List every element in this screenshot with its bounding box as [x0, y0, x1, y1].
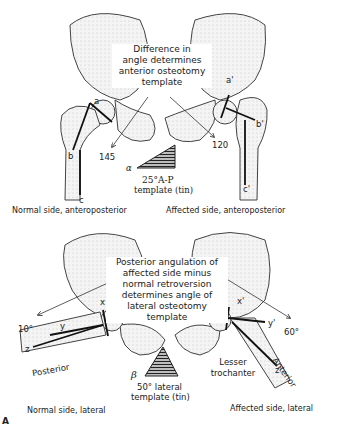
- point-a-prime: a': [226, 76, 234, 85]
- point-y: y: [60, 322, 65, 331]
- angle-60: 60°: [284, 328, 299, 337]
- angle-145: 145: [99, 153, 115, 162]
- point-c-prime: c': [243, 185, 250, 194]
- callout-line: template: [106, 312, 228, 323]
- callout-line: lateral osteotomy: [106, 301, 228, 312]
- point-a: a: [94, 97, 99, 106]
- angle-120: 120: [212, 141, 228, 150]
- bottom-right-caption: Affected side, lateral: [230, 405, 313, 413]
- callout-line: angle determines: [112, 55, 212, 66]
- ap-template-label: 25°A-P: [142, 176, 174, 185]
- label-line: Lesser: [208, 357, 258, 368]
- label-line: trochanter: [208, 368, 258, 379]
- bottom-left-caption: Normal side, lateral: [27, 407, 106, 415]
- angle-10: 10°: [18, 325, 33, 334]
- beta-symbol: β: [131, 370, 137, 380]
- ap-template-triangle: [137, 145, 175, 168]
- top-right-caption: Affected side, anteroposterior: [166, 207, 285, 215]
- alpha-symbol: α: [126, 164, 132, 173]
- callout-line: anterior osteotomy: [112, 66, 212, 77]
- ap-template-sublabel: template (tin): [134, 186, 193, 195]
- point-y-prime: y': [268, 319, 275, 328]
- callout-line: affected side minus: [106, 268, 228, 279]
- lateral-template-label: 50° lateral: [137, 383, 182, 392]
- top-callout: Difference in angle determines anterior …: [112, 44, 212, 88]
- bottom-callout: Posterior angulation of affected side mi…: [106, 257, 228, 323]
- callout-line: normal retroversion: [106, 279, 228, 290]
- callout-line: determines angle of: [106, 290, 228, 301]
- callout-line: Difference in: [112, 44, 212, 55]
- point-x-prime: x': [237, 297, 244, 306]
- point-c: c: [79, 196, 84, 205]
- figure-label: A: [2, 417, 9, 426]
- point-b-prime: b': [256, 120, 264, 129]
- point-b: b: [68, 152, 73, 161]
- point-x: x: [100, 298, 105, 307]
- top-left-caption: Normal side, anteroposterior: [12, 207, 127, 215]
- lesser-trochanter-label: Lesser trochanter: [208, 357, 258, 379]
- point-z: z: [25, 345, 29, 354]
- callout-line: template: [112, 77, 212, 88]
- lateral-template-sublabel: template (tin): [131, 393, 190, 402]
- callout-line: Posterior angulation of: [106, 257, 228, 268]
